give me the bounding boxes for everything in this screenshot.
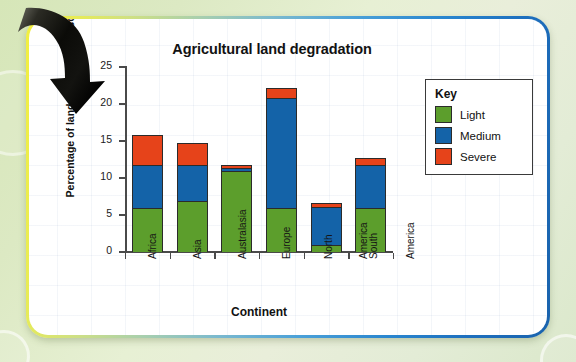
chart-card: Agricultural land degradation Percentage… xyxy=(29,19,547,335)
decorative-circle-bottom-left xyxy=(0,330,30,362)
chart-legend: Key LightMediumSevere xyxy=(425,79,533,175)
legend-label-medium: Medium xyxy=(460,130,501,142)
x-tick-0 xyxy=(125,253,126,259)
bar-segment-medium xyxy=(177,165,208,202)
x-tick-end xyxy=(393,253,394,259)
bar-segment-severe xyxy=(132,135,163,165)
y-tick-label-0: 0 xyxy=(106,244,112,256)
x-tick-2 xyxy=(214,253,215,259)
y-axis-label: Percentage of land with damaged soil xyxy=(64,19,77,199)
legend-title: Key xyxy=(435,87,524,101)
y-tick-label-10: 10 xyxy=(100,170,112,182)
legend-swatch-severe xyxy=(435,148,452,165)
bar-segment-severe xyxy=(177,143,208,166)
decorative-circle-bottom-right xyxy=(540,334,576,362)
bar-segment-medium xyxy=(266,98,297,209)
bar-chart: Agricultural land degradation Percentage… xyxy=(29,19,547,335)
x-tick-3 xyxy=(259,253,260,259)
legend-item-light: Light xyxy=(435,106,524,123)
legend-swatch-light xyxy=(435,106,452,123)
chart-title: Agricultural land degradation xyxy=(127,41,417,57)
y-tick-label-20: 20 xyxy=(100,96,112,108)
legend-item-severe: Severe xyxy=(435,148,524,165)
bar-segment-medium xyxy=(355,165,386,209)
legend-label-light: Light xyxy=(460,109,485,121)
x-tick-4 xyxy=(304,253,305,259)
legend-label-severe: Severe xyxy=(460,151,496,163)
y-tick-label-25: 25 xyxy=(100,59,112,71)
x-axis-label: Continent xyxy=(125,305,393,319)
y-axis-label-line-1: Percentage of xyxy=(64,128,76,197)
y-axis-label-line-2: land with damaged soil xyxy=(64,19,76,125)
chart-card-frame: Agricultural land degradation Percentage… xyxy=(26,16,550,338)
y-tick-label-15: 15 xyxy=(100,133,112,145)
y-tick-label-5: 5 xyxy=(106,207,112,219)
legend-swatch-medium xyxy=(435,127,452,144)
plot-area: 0510152025 AfricaAsiaAustralasiaEuropeNo… xyxy=(125,66,393,253)
x-tick-1 xyxy=(170,253,171,259)
legend-item-medium: Medium xyxy=(435,127,524,144)
bar-asia xyxy=(177,143,208,252)
bar-group xyxy=(125,66,393,253)
bar-segment-medium xyxy=(132,165,163,209)
x-tick-5 xyxy=(348,253,349,259)
